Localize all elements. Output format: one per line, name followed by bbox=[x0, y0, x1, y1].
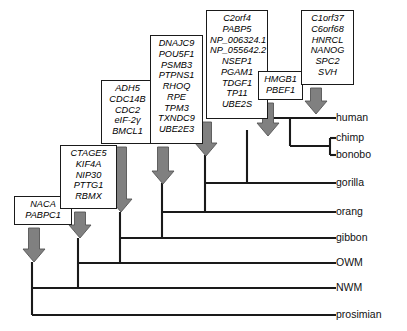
gene-label: UBE2E3 bbox=[154, 124, 199, 135]
gene-label: ADH5 bbox=[105, 83, 150, 94]
gene-label: BMCL1 bbox=[105, 126, 150, 137]
gene-label: UBE2S bbox=[210, 99, 264, 110]
tip-label-gibbon: gibbon bbox=[336, 232, 368, 243]
gene-label: NSEP1 bbox=[210, 56, 264, 67]
box-nodeG-c1orf37: C1orf37C6orf68HNRCLNANOGSPC2SVH bbox=[301, 10, 354, 85]
gene-label: RHOQ bbox=[154, 81, 199, 92]
box-nodeD-dnajc9: DNAJC9POU5F1PSMB3PTPNS1RHOQRPETPM3TXNDC9… bbox=[150, 35, 203, 144]
arrow-dnajc9-down-arrow-icon bbox=[152, 147, 174, 184]
gene-label: PBEF1 bbox=[262, 85, 299, 96]
gene-label: DNAJC9 bbox=[154, 38, 199, 49]
gene-label: HNRCL bbox=[305, 35, 350, 46]
gene-label: TPM3 bbox=[154, 103, 199, 114]
gene-label: PTTG1 bbox=[64, 180, 113, 191]
gene-label: NANOG bbox=[305, 45, 350, 56]
gene-label: PTPNS1 bbox=[154, 70, 199, 81]
arrow-naca-down-arrow-icon bbox=[23, 228, 45, 262]
gene-label: SVH bbox=[305, 67, 350, 78]
figure-canvas: NACAPABPC1CTAGE5KIF4ANIP30PTTG1RBMXADH5C… bbox=[0, 0, 407, 331]
box-nodeF-hmgb1: HMGB1PBEF1 bbox=[258, 71, 303, 100]
tip-label-orang: orang bbox=[336, 206, 363, 217]
gene-label: CDC2 bbox=[105, 105, 150, 116]
gene-label: SPC2 bbox=[305, 56, 350, 67]
gene-label: CTAGE5 bbox=[64, 148, 113, 159]
gene-label: eIF-2γ bbox=[105, 115, 150, 126]
gene-label: CDC14B bbox=[105, 94, 150, 105]
gene-label: PSMB3 bbox=[154, 60, 199, 71]
box-nodeC-adh5: ADH5CDC14BCDC2eIF-2γBMCL1 bbox=[101, 80, 154, 144]
arrow-c1orf37-down-arrow-icon bbox=[305, 88, 327, 114]
gene-label: RBMX bbox=[64, 191, 113, 202]
gene-label: C1orf37 bbox=[305, 13, 350, 24]
gene-label: POU5F1 bbox=[154, 49, 199, 60]
tip-label-bonobo: bonobo bbox=[336, 149, 371, 160]
gene-label: TP11 bbox=[210, 88, 264, 99]
tip-label-prosimian: prosimian bbox=[336, 309, 382, 320]
arrow-ctage5-down-arrow-icon bbox=[69, 212, 91, 238]
gene-label: NP_055642.2 bbox=[210, 45, 264, 56]
gene-label: PABPC1 bbox=[18, 210, 68, 221]
gene-label: RPE bbox=[154, 92, 199, 103]
gene-label: PGAM1 bbox=[210, 67, 264, 78]
gene-label: HMGB1 bbox=[262, 74, 299, 85]
box-nodeB-ctage5: CTAGE5KIF4ANIP30PTTG1RBMX bbox=[60, 145, 117, 209]
gene-label: NP_006324.1 bbox=[210, 35, 264, 46]
tip-label-chimp: chimp bbox=[336, 132, 364, 143]
tip-label-human: human bbox=[336, 112, 368, 123]
gene-label: NIP30 bbox=[64, 170, 113, 181]
gene-label: TDGF1 bbox=[210, 78, 264, 89]
gene-label: KIF4A bbox=[64, 159, 113, 170]
tip-label-nwm: NWM bbox=[336, 282, 362, 293]
gene-label: TXNDC9 bbox=[154, 113, 199, 124]
gene-label: C6orf68 bbox=[305, 24, 350, 35]
tip-label-owm: OWM bbox=[336, 257, 363, 268]
gene-label: C2orf4 bbox=[210, 13, 264, 24]
gene-label: PABP5 bbox=[210, 24, 264, 35]
box-nodeE-c2orf4: C2orf4PABP5NP_006324.1NP_055642.2NSEP1PG… bbox=[206, 10, 268, 119]
tip-label-gorilla: gorilla bbox=[336, 177, 364, 188]
